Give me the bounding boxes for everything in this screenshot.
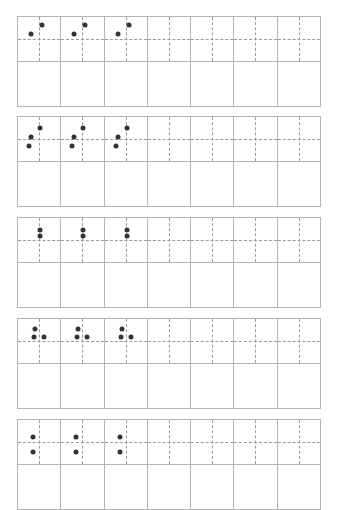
dot-icon <box>124 234 129 239</box>
guide-cell <box>60 16 104 62</box>
guide-cell <box>190 419 234 465</box>
guide-cell <box>104 16 148 62</box>
writing-cell[interactable] <box>60 363 104 409</box>
guide-cell <box>277 318 321 364</box>
practice-block <box>17 16 327 107</box>
vertical-guide-line <box>39 319 40 363</box>
guide-cell <box>147 16 191 62</box>
writing-cell[interactable] <box>104 161 148 207</box>
dot-icon <box>42 335 47 340</box>
vertical-guide-line <box>299 319 300 363</box>
writing-cell[interactable] <box>104 464 148 510</box>
writing-cell[interactable] <box>17 61 61 107</box>
vertical-guide-line <box>169 17 170 61</box>
vertical-guide-line <box>82 117 83 161</box>
vertical-guide-line <box>126 218 127 262</box>
writing-cell[interactable] <box>233 262 277 308</box>
vertical-guide-line <box>169 319 170 363</box>
guide-row <box>17 419 327 465</box>
writing-cell[interactable] <box>104 363 148 409</box>
guide-cell <box>233 16 277 62</box>
guide-cell <box>17 116 61 162</box>
guide-cell <box>60 217 104 263</box>
dot-icon <box>115 32 120 37</box>
vertical-guide-line <box>39 117 40 161</box>
writing-cell[interactable] <box>17 363 61 409</box>
writing-cell[interactable] <box>190 161 234 207</box>
dot-icon <box>118 335 123 340</box>
vertical-guide-line <box>255 319 256 363</box>
guide-cell <box>277 16 321 62</box>
writing-cell[interactable] <box>233 61 277 107</box>
writing-cell[interactable] <box>147 61 191 107</box>
writing-cell[interactable] <box>147 464 191 510</box>
vertical-guide-line <box>299 420 300 464</box>
writing-cell[interactable] <box>104 262 148 308</box>
writing-cell[interactable] <box>60 161 104 207</box>
writing-cell[interactable] <box>277 262 321 308</box>
writing-cell[interactable] <box>233 161 277 207</box>
writing-cell[interactable] <box>190 262 234 308</box>
writing-cell[interactable] <box>147 363 191 409</box>
writing-cell[interactable] <box>233 464 277 510</box>
guide-row <box>17 16 327 62</box>
writing-cell[interactable] <box>190 363 234 409</box>
writing-cell[interactable] <box>17 262 61 308</box>
guide-cell <box>104 116 148 162</box>
guide-cell <box>17 318 61 364</box>
dot-icon <box>76 327 81 332</box>
guide-cell <box>190 116 234 162</box>
guide-cell <box>190 16 234 62</box>
guide-cell <box>17 16 61 62</box>
vertical-guide-line <box>212 319 213 363</box>
dot-icon <box>38 234 43 239</box>
writing-row <box>17 464 327 510</box>
vertical-guide-line <box>255 117 256 161</box>
dot-icon <box>81 126 86 131</box>
guide-cell <box>104 217 148 263</box>
dot-icon <box>128 335 133 340</box>
guide-cell <box>147 419 191 465</box>
guide-row <box>17 217 327 263</box>
guide-cell <box>233 318 277 364</box>
writing-cell[interactable] <box>277 161 321 207</box>
guide-cell <box>17 217 61 263</box>
vertical-guide-line <box>82 218 83 262</box>
dot-icon <box>126 23 131 28</box>
writing-cell[interactable] <box>277 363 321 409</box>
writing-cell[interactable] <box>104 61 148 107</box>
dot-icon <box>31 450 36 455</box>
dot-icon <box>32 335 37 340</box>
guide-cell <box>147 318 191 364</box>
writing-cell[interactable] <box>277 464 321 510</box>
writing-cell[interactable] <box>17 161 61 207</box>
dot-icon <box>38 126 43 131</box>
dot-icon <box>72 135 77 140</box>
guide-cell <box>277 419 321 465</box>
writing-cell[interactable] <box>60 262 104 308</box>
vertical-guide-line <box>299 17 300 61</box>
writing-row <box>17 161 327 207</box>
writing-cell[interactable] <box>60 464 104 510</box>
guide-cell <box>104 419 148 465</box>
vertical-guide-line <box>299 218 300 262</box>
dot-icon <box>81 234 86 239</box>
writing-cell[interactable] <box>147 262 191 308</box>
dot-icon <box>117 435 122 440</box>
writing-cell[interactable] <box>233 363 277 409</box>
practice-block <box>17 217 327 308</box>
writing-cell[interactable] <box>277 61 321 107</box>
guide-cell <box>104 318 148 364</box>
writing-cell[interactable] <box>190 464 234 510</box>
guide-cell <box>277 217 321 263</box>
vertical-guide-line <box>255 218 256 262</box>
vertical-guide-line <box>82 420 83 464</box>
writing-cell[interactable] <box>190 61 234 107</box>
writing-row <box>17 61 327 107</box>
writing-cell[interactable] <box>147 161 191 207</box>
vertical-guide-line <box>299 117 300 161</box>
guide-cell <box>233 419 277 465</box>
dot-icon <box>38 228 43 233</box>
writing-cell[interactable] <box>60 61 104 107</box>
writing-cell[interactable] <box>17 464 61 510</box>
